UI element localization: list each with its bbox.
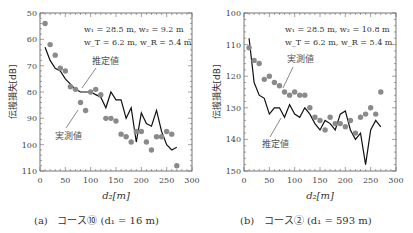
y-tick-label: 130 bbox=[226, 104, 241, 113]
y-tick-label: 150 bbox=[226, 167, 241, 176]
measured-point bbox=[73, 87, 78, 92]
estimated-leader bbox=[270, 118, 281, 137]
measured-point bbox=[338, 121, 343, 126]
measured-point bbox=[267, 74, 272, 79]
measured-point bbox=[134, 129, 139, 134]
measured-point bbox=[154, 134, 159, 139]
measured-point bbox=[262, 77, 267, 82]
measured-leader bbox=[283, 67, 293, 88]
measured-point bbox=[292, 89, 297, 94]
measured-point bbox=[164, 129, 169, 134]
measured-point bbox=[297, 92, 302, 97]
x-tick-label: 100 bbox=[83, 176, 98, 185]
caption-a-param: (d₁ = 16 m) bbox=[101, 215, 159, 226]
measured-point bbox=[358, 115, 363, 120]
measured-point bbox=[123, 134, 128, 139]
chart-panel-a: 0501001502002503005060708090100110d₂[m]伝… bbox=[7, 9, 200, 201]
measured-point bbox=[78, 100, 83, 105]
measured-point bbox=[149, 147, 154, 152]
measured-point bbox=[363, 111, 368, 116]
measured-leader bbox=[66, 110, 78, 128]
measured-point bbox=[257, 61, 262, 66]
measured-point bbox=[103, 116, 108, 121]
measured-point bbox=[302, 92, 307, 97]
measured-point bbox=[113, 118, 118, 123]
caption-a-course: コース⑩ bbox=[57, 215, 97, 226]
measured-point bbox=[169, 131, 174, 136]
x-tick-label: 100 bbox=[287, 176, 302, 185]
measured-point bbox=[282, 89, 287, 94]
chart-panel-b: 050100150200250300100110120130140150d₂[m… bbox=[211, 9, 404, 201]
x-tick-label: 0 bbox=[37, 176, 42, 185]
estimated-leader bbox=[82, 68, 96, 88]
measured-point bbox=[353, 130, 358, 135]
y-tick-label: 110 bbox=[226, 41, 241, 50]
measured-point bbox=[251, 58, 256, 63]
annotation-line-1: w₁ = 28.5 m, w₂ = 9.2 m bbox=[84, 25, 184, 34]
measured-point bbox=[333, 121, 338, 126]
caption-a-label: (a) bbox=[34, 215, 48, 226]
measured-point bbox=[88, 89, 93, 94]
x-tick-label: 300 bbox=[184, 176, 199, 185]
measured-point bbox=[317, 118, 322, 123]
estimated-label: 推定値 bbox=[262, 138, 289, 149]
measured-point bbox=[174, 163, 179, 168]
measured-point bbox=[98, 92, 103, 97]
measured-point bbox=[348, 118, 353, 123]
measured-point bbox=[58, 66, 63, 71]
measured-point bbox=[63, 68, 68, 73]
measured-point bbox=[312, 115, 317, 120]
measured-point bbox=[373, 111, 378, 116]
measured-label: 実測値 bbox=[55, 130, 82, 141]
measured-point bbox=[129, 139, 134, 144]
x-tick-label: 150 bbox=[312, 176, 327, 185]
x-tick-label: 250 bbox=[363, 176, 378, 185]
y-tick-label: 140 bbox=[226, 135, 241, 144]
caption-b: (b) コース② (d₁ = 593 m) bbox=[240, 212, 372, 227]
measured-point bbox=[307, 105, 312, 110]
measured-point bbox=[68, 84, 73, 89]
x-tick-label: 200 bbox=[134, 176, 149, 185]
x-axis-label: d₂[m] bbox=[102, 190, 130, 201]
caption-a: (a) コース⑩ (d₁ = 16 m) bbox=[34, 212, 159, 227]
y-tick-label: 120 bbox=[226, 72, 241, 81]
measured-point bbox=[93, 87, 98, 92]
y-tick-label: 100 bbox=[22, 141, 37, 150]
y-axis-label: 伝搬損失[dB] bbox=[7, 65, 18, 120]
charts-canvas: 0501001502002503005060708090100110d₂[m]伝… bbox=[0, 0, 413, 233]
x-tick-label: 50 bbox=[60, 176, 70, 185]
measured-point bbox=[83, 108, 88, 113]
caption-b-label: (b) bbox=[240, 215, 254, 226]
x-tick-label: 150 bbox=[108, 176, 123, 185]
x-axis-label: d₂[m] bbox=[306, 190, 334, 201]
annotation-line-1: w₁ = 28.5 m, w₂ = 10.8 m bbox=[285, 25, 390, 34]
measured-point bbox=[272, 80, 277, 85]
measured-point bbox=[118, 131, 123, 136]
y-tick-label: 70 bbox=[27, 62, 37, 71]
measured-point bbox=[287, 92, 292, 97]
y-axis-label: 伝搬損失[dB] bbox=[211, 65, 222, 120]
y-tick-label: 110 bbox=[22, 167, 37, 176]
measured-label: 実測値 bbox=[287, 53, 314, 64]
x-tick-label: 0 bbox=[241, 176, 246, 185]
measured-point bbox=[378, 89, 383, 94]
measured-point bbox=[322, 127, 327, 132]
annotation-line-2: w_T = 6.2 m, w_R = 5.4 m bbox=[285, 38, 393, 47]
y-tick-label: 90 bbox=[27, 114, 37, 123]
y-tick-label: 80 bbox=[27, 88, 37, 97]
y-tick-label: 100 bbox=[226, 9, 241, 18]
x-tick-label: 250 bbox=[159, 176, 174, 185]
measured-point bbox=[327, 115, 332, 120]
measured-point bbox=[108, 116, 113, 121]
measured-point bbox=[139, 129, 144, 134]
measured-point bbox=[42, 21, 47, 26]
annotation-line-2: w_T = 6.2 m, w_R = 5.4 m bbox=[84, 38, 192, 47]
x-tick-label: 200 bbox=[338, 176, 353, 185]
y-tick-label: 50 bbox=[27, 9, 37, 18]
estimated-label: 推定値 bbox=[92, 55, 119, 66]
measured-point bbox=[368, 105, 373, 110]
caption-b-course: コース② bbox=[264, 215, 304, 226]
y-tick-label: 60 bbox=[27, 35, 37, 44]
measured-point bbox=[277, 83, 282, 88]
x-tick-label: 50 bbox=[264, 176, 274, 185]
